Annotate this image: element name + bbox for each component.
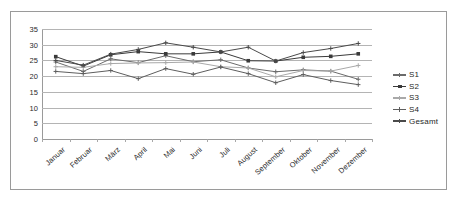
y-tick-label-15: 15 <box>29 87 38 96</box>
legend-item-s1[interactable]: S1 <box>393 69 443 81</box>
legend-label: S4 <box>409 105 419 114</box>
x-tick-mark <box>262 139 263 142</box>
series-s3 <box>54 60 361 79</box>
series-lines <box>42 29 372 139</box>
legend-swatch-s4-icon <box>393 104 406 115</box>
legend-label: Gesamt <box>409 117 438 126</box>
x-tick-label-juni: Juni <box>188 145 205 161</box>
y-tick-label-35: 35 <box>29 25 38 34</box>
y-tick-label-5: 5 <box>34 119 38 128</box>
series-s4 <box>54 65 361 87</box>
legend-item-gesamt[interactable]: Gesamt <box>393 115 443 127</box>
x-tick-mark <box>345 139 346 142</box>
x-tick-mark <box>97 139 98 142</box>
y-tick-label-10: 10 <box>29 103 38 112</box>
y-tick-label-0: 0 <box>34 135 38 144</box>
legend-label: S1 <box>409 70 419 79</box>
x-tick-mark <box>152 139 153 142</box>
x-tick-label-august: August <box>235 145 259 168</box>
x-tick-label-februar: Februar <box>68 145 94 170</box>
legend-swatch-s3-icon <box>393 92 406 103</box>
x-tick-mark <box>372 139 373 142</box>
x-tick-label-november: November <box>309 145 341 175</box>
x-tick-label-märz: März <box>103 145 122 163</box>
x-tick-mark <box>317 139 318 142</box>
x-tick-mark <box>70 139 71 142</box>
y-tick-label-25: 25 <box>29 56 38 65</box>
legend-swatch-s1-icon <box>393 69 406 80</box>
legend-swatch-gesamt-icon <box>393 116 406 127</box>
legend-label: S3 <box>409 93 419 102</box>
chart-frame: 05101520253035 JanuarFebruarMärzAprilMai… <box>10 11 447 190</box>
legend-item-s4[interactable]: S4 <box>393 104 443 116</box>
x-tick-mark <box>42 139 43 142</box>
x-tick-label-juli: Juli <box>217 145 232 159</box>
y-tick-label-20: 20 <box>29 72 38 81</box>
x-tick-mark <box>207 139 208 142</box>
x-tick-label-januar: Januar <box>43 145 67 167</box>
series-gesamt <box>54 41 361 68</box>
legend-label: S2 <box>409 82 419 91</box>
y-tick-label-30: 30 <box>29 40 38 49</box>
plot-area: 05101520253035 JanuarFebruarMärzAprilMai… <box>42 29 372 139</box>
x-tick-label-mai: Mai <box>162 145 177 160</box>
legend-swatch-s2-icon <box>393 81 406 92</box>
legend-item-s2[interactable]: S2 <box>393 81 443 93</box>
x-tick-mark <box>125 139 126 142</box>
x-tick-mark <box>235 139 236 142</box>
x-tick-mark <box>180 139 181 142</box>
x-tick-label-april: April <box>132 145 150 162</box>
x-tick-mark <box>290 139 291 142</box>
x-tick-label-dezember: Dezember <box>337 145 369 175</box>
chart-legend: S1S2S3S4Gesamt <box>393 69 443 127</box>
legend-item-s3[interactable]: S3 <box>393 92 443 104</box>
